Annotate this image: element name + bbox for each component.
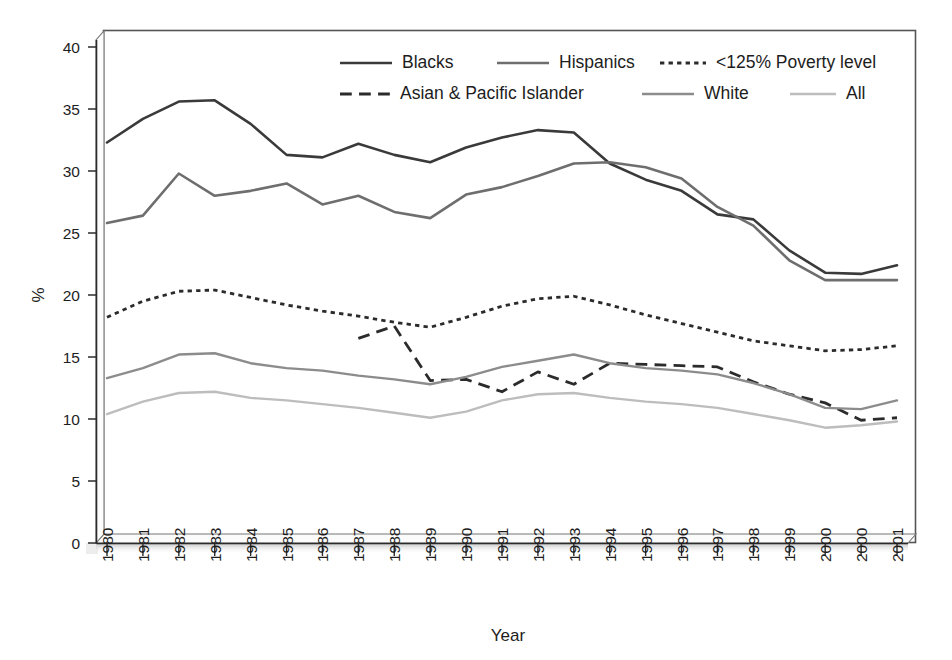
x-tick-label: 1980 xyxy=(99,527,116,562)
legend-label: <125% Poverty level xyxy=(716,52,876,72)
y-tick-label: 25 xyxy=(63,225,80,242)
legend-label: Hispanics xyxy=(559,52,635,72)
x-tick-label: 1986 xyxy=(314,528,331,562)
y-tick-label: 0 xyxy=(71,535,80,552)
y-axis-ticks: 0510152025303540 xyxy=(63,39,97,552)
x-tick-label: 1992 xyxy=(530,528,547,562)
y-axis-title: % xyxy=(29,287,48,302)
x-tick-label: 2000 xyxy=(853,527,870,562)
line-chart-canvas: 0510152025303540 19801981198219831984198… xyxy=(0,0,952,660)
legend-label: White xyxy=(704,83,749,103)
x-tick-label: 1995 xyxy=(638,528,655,562)
x-tick-label: 1991 xyxy=(494,528,511,562)
x-tick-label: 1982 xyxy=(171,528,188,562)
x-tick-label: 2000 xyxy=(817,527,834,562)
y-tick-label: 15 xyxy=(63,349,80,366)
x-axis-ticks: 1980198119821983198419851986198719881989… xyxy=(99,527,906,562)
y-tick-label: 40 xyxy=(63,39,81,56)
x-tick-label: 1998 xyxy=(745,528,762,562)
y-tick-label: 5 xyxy=(71,473,80,490)
chart-figure: 0510152025303540 19801981198219831984198… xyxy=(0,0,952,660)
x-tick-label: 1997 xyxy=(709,528,726,562)
y-tick-label: 35 xyxy=(63,101,80,118)
legend-label: All xyxy=(846,83,865,103)
legend-label: Blacks xyxy=(402,52,454,72)
x-tick-label: 1987 xyxy=(350,528,367,562)
x-tick-label: 1999 xyxy=(781,528,798,562)
x-tick-label: 2001 xyxy=(889,528,906,562)
x-tick-label: 1984 xyxy=(243,527,260,562)
x-tick-label: 1993 xyxy=(566,528,583,562)
x-tick-label: 1989 xyxy=(422,528,439,562)
legend-label: Asian & Pacific Islander xyxy=(400,83,584,103)
x-tick-label: 1990 xyxy=(458,527,475,562)
x-tick-label: 1981 xyxy=(135,528,152,562)
x-tick-label: 1988 xyxy=(386,528,403,562)
y-tick-label: 30 xyxy=(63,163,81,180)
y-tick-label: 10 xyxy=(63,411,81,428)
y-tick-label: 20 xyxy=(63,287,81,304)
x-axis-title: Year xyxy=(491,626,526,645)
x-tick-label: 1983 xyxy=(207,528,224,562)
x-tick-label: 1994 xyxy=(602,527,619,562)
x-tick-label: 1985 xyxy=(279,528,296,562)
x-tick-label: 1996 xyxy=(674,528,691,562)
